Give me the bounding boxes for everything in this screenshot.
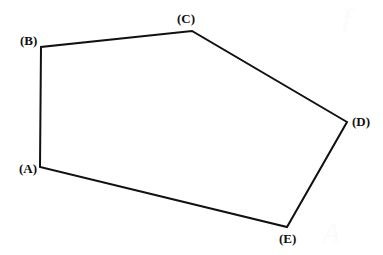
figure-background [0,0,383,255]
polygon-shape [0,0,383,255]
vertex-label-e: (E) [279,231,296,246]
vertex-label-d: (D) [352,114,370,129]
vertex-label-c: (C) [177,11,195,26]
vertex-label-a: (A) [19,161,37,176]
vertex-label-b: (B) [20,33,37,48]
figure-canvas: ƒ A (B) (C) (D) (A) (E) [0,0,383,255]
